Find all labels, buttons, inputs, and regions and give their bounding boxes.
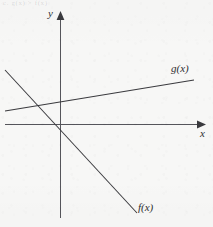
x-axis bbox=[5, 121, 206, 129]
curve-label-f: f(x) bbox=[138, 202, 153, 213]
y-axis-label: y bbox=[48, 8, 53, 19]
curve-label-g: g(x) bbox=[171, 63, 189, 74]
y-axis bbox=[57, 11, 65, 218]
y-axis-arrow-icon bbox=[57, 11, 65, 20]
line-f-of-x bbox=[5, 70, 137, 213]
coordinate-plot bbox=[0, 0, 213, 227]
x-axis-label: x bbox=[200, 128, 205, 139]
figure-canvas: c. g(x) > f(x) y x g(x) f(x) bbox=[0, 0, 213, 227]
line-g-of-x bbox=[5, 80, 194, 111]
